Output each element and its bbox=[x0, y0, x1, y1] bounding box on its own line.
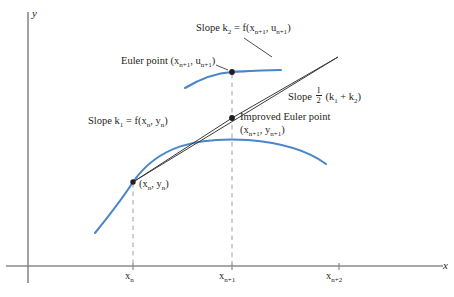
euler-point-marker bbox=[229, 69, 235, 75]
base-point-label: (xn, yn) bbox=[139, 178, 169, 190]
fraction-numerator: 1 bbox=[316, 86, 322, 95]
leader-line-slope-k2 bbox=[244, 38, 272, 57]
slope-average-prefix: Slope bbox=[288, 91, 312, 102]
figure-svg bbox=[0, 0, 454, 297]
improved-euler-point-marker bbox=[229, 115, 235, 121]
slope-k1-label: Slope k1 = f(xn, yn) bbox=[88, 115, 168, 127]
x-tick-label-xn1: xn+1 bbox=[219, 270, 235, 281]
improved-euler-point-label-line1: Improved Euler point bbox=[240, 111, 330, 123]
slope-average-suffix: (k1 + k2) bbox=[325, 91, 361, 102]
slope-k2-label: Slope k2 = f(xn+1, un+1) bbox=[196, 22, 291, 34]
fraction-denominator: 2 bbox=[316, 95, 322, 105]
figure-canvas: y x xn xn+1 xn+2 Euler point (xn+1, un+1… bbox=[0, 0, 454, 297]
euler-point-label: Euler point (xn+1, un+1) bbox=[121, 55, 215, 67]
improved-euler-point-label-line2: (xn+1, yn+1) bbox=[240, 124, 285, 136]
x-tick-label-xn2: xn+2 bbox=[326, 270, 342, 281]
x-tick-label-xn: xn bbox=[125, 270, 134, 281]
slope-average-label: Slope 12 (k1 + k2) bbox=[288, 86, 361, 104]
leader-line-euler-point bbox=[216, 65, 228, 70]
solution-curve bbox=[95, 139, 326, 233]
y-axis-label: y bbox=[32, 7, 37, 19]
base-point-marker bbox=[130, 179, 135, 184]
one-half-fraction: 12 bbox=[316, 86, 322, 104]
x-axis-label: x bbox=[443, 259, 448, 271]
